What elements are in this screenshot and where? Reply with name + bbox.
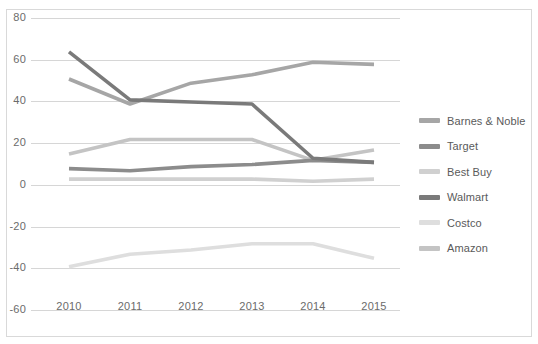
- x-axis-tick-label: 2014: [293, 300, 333, 312]
- legend-item-amazon[interactable]: Amazon: [419, 236, 537, 262]
- legend-item-target[interactable]: Target: [419, 134, 537, 160]
- y-axis-tick-label: -40: [0, 261, 26, 273]
- y-axis-tick-label: -20: [0, 220, 26, 232]
- series-line-target: [69, 160, 374, 170]
- series-line-costco: [69, 244, 374, 267]
- series-line-amazon: [69, 139, 374, 160]
- legend-item-best-buy[interactable]: Best Buy: [419, 159, 537, 185]
- line-chart: 806040200-20-40-60 201020112012201320142…: [0, 0, 538, 344]
- legend-swatch-costco: [419, 220, 440, 225]
- y-axis-tick-label: -60: [0, 303, 26, 315]
- legend-label: Walmart: [447, 191, 488, 203]
- x-axis-tick-label: 2015: [354, 300, 394, 312]
- legend-swatch-best-buy: [419, 169, 440, 174]
- legend-swatch-walmart: [419, 195, 440, 200]
- y-axis-tick-label: 0: [0, 178, 26, 190]
- series-line-best-buy: [69, 179, 374, 181]
- series-line-walmart: [69, 52, 374, 163]
- legend-label: Best Buy: [447, 166, 492, 178]
- legend: Barnes & NobleTargetBest BuyWalmartCostc…: [419, 108, 537, 261]
- legend-swatch-amazon: [419, 246, 440, 251]
- series-line-barnes-noble: [69, 62, 374, 104]
- x-axis-tick-label: 2010: [49, 300, 89, 312]
- series-lines: [69, 52, 374, 267]
- legend-label: Amazon: [447, 242, 488, 254]
- x-axis-tick-label: 2013: [232, 300, 272, 312]
- legend-label: Barnes & Noble: [447, 115, 525, 127]
- y-axis-tick-label: 20: [0, 136, 26, 148]
- legend-item-barnes-noble[interactable]: Barnes & Noble: [419, 108, 537, 134]
- legend-label: Target: [447, 140, 478, 152]
- legend-label: Costco: [447, 217, 482, 229]
- legend-item-walmart[interactable]: Walmart: [419, 185, 537, 211]
- legend-swatch-barnes-noble: [419, 118, 440, 123]
- y-axis-tick-label: 80: [0, 11, 26, 23]
- y-axis-tick-label: 60: [0, 53, 26, 65]
- x-axis-tick-label: 2011: [110, 300, 150, 312]
- y-axis-tick-label: 40: [0, 94, 26, 106]
- legend-item-costco[interactable]: Costco: [419, 210, 537, 236]
- legend-swatch-target: [419, 144, 440, 149]
- x-axis-tick-label: 2012: [171, 300, 211, 312]
